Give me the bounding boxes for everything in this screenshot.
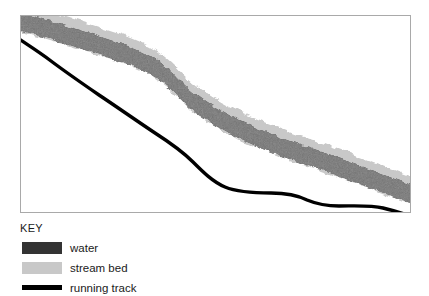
water-texture [21, 16, 410, 205]
grey-fill-swatch [22, 262, 62, 274]
legend-item-running-track: running track [20, 281, 320, 296]
dark-fill-swatch [22, 242, 62, 254]
legend-item-label: water [70, 241, 98, 255]
legend: KEY water stream bed running track [20, 220, 320, 296]
black-line-swatch [22, 285, 62, 290]
legend-item-water: water [20, 241, 320, 256]
map-frame [20, 15, 411, 213]
map-canvas [21, 16, 410, 212]
legend-item-label: running track [70, 281, 136, 295]
legend-title: KEY [20, 220, 320, 236]
legend-item-label: stream bed [70, 261, 128, 275]
legend-item-stream-bed: stream bed [20, 261, 320, 276]
